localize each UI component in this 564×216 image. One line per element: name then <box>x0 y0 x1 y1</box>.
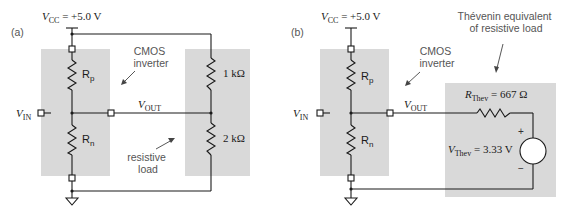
vin-terminal-icon <box>317 110 323 116</box>
plus-sign: + <box>518 126 524 137</box>
terminal-icon <box>348 175 354 181</box>
terminal-icon <box>348 46 354 52</box>
vin-terminal-icon <box>38 110 44 116</box>
thevenin-annotation: Thévenin equivalent of resistive load <box>458 10 555 34</box>
terminal-icon <box>69 175 75 181</box>
load-r1-label: 1 kΩ <box>223 67 245 79</box>
arrow-icon <box>408 72 420 83</box>
junction-dot <box>70 32 73 35</box>
minus-sign: − <box>518 163 524 174</box>
arrow-icon <box>156 140 172 149</box>
arrow-icon <box>497 44 503 68</box>
panel-a: (a) VCC = +5.0 V Rp VIN VOUT Rn <box>11 10 250 205</box>
vout-label: VOUT <box>138 98 161 113</box>
ground-icon <box>66 198 78 205</box>
vout-terminal-icon <box>387 110 393 116</box>
voltage-source-icon <box>520 138 546 164</box>
cmos-inverter-figure: (a) VCC = +5.0 V Rp VIN VOUT Rn <box>0 0 564 216</box>
cmos-inverter-annotation: CMOS inverter <box>133 45 169 69</box>
vcc-label: VCC = +5.0 V <box>42 10 102 25</box>
terminal-icon <box>69 46 75 52</box>
panel-b: (b) VCC = +5.0 V Rp VIN VOUT Rn RThev = … <box>291 10 556 205</box>
vout-label: VOUT <box>404 98 427 113</box>
vout-terminal-icon <box>108 110 114 116</box>
vin-label: VIN <box>16 107 31 122</box>
vin-label: VIN <box>293 107 308 122</box>
resistive-load-annotation: resistive load <box>127 151 168 175</box>
panel-label: (b) <box>291 26 304 38</box>
cmos-inverter-annotation: CMOS inverter <box>419 45 455 69</box>
panel-label: (a) <box>11 26 24 38</box>
load-r2-label: 2 kΩ <box>223 132 245 144</box>
vcc-label: VCC = +5.0 V <box>321 10 381 25</box>
ground-icon <box>345 198 357 205</box>
